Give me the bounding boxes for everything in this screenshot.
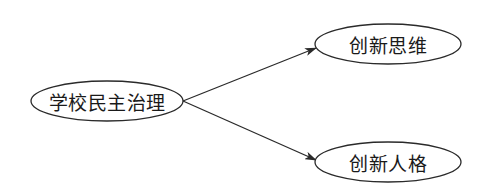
- concept-diagram: 学校民主治理 创新思维 创新人格: [0, 0, 494, 196]
- arrow-root-to-bottom: [183, 101, 316, 160]
- node-label-innovative-thinking: 创新思维: [349, 31, 427, 58]
- node-label-school-democratic-governance: 学校民主治理: [49, 88, 166, 115]
- node-label-innovative-personality: 创新人格: [349, 149, 427, 176]
- arrow-root-to-top: [183, 48, 316, 101]
- edges-group: [183, 48, 316, 160]
